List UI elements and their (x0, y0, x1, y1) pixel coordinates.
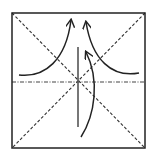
origami-diagram (0, 0, 156, 158)
